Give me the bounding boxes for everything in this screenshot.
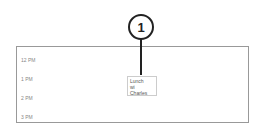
- callout-number: 1: [137, 20, 144, 35]
- time-label-3pm: 3 PM: [21, 114, 33, 120]
- callout-marker: 1: [128, 14, 154, 40]
- time-label-2pm: 2 PM: [21, 95, 33, 101]
- time-label-12pm: 12 PM: [21, 57, 35, 63]
- calendar-event[interactable]: Lunch wi Charles: [127, 76, 157, 96]
- callout-leader-line: [140, 38, 142, 75]
- time-label-1pm: 1 PM: [21, 76, 33, 82]
- event-attendee: Charles: [130, 90, 154, 96]
- calendar-day-view: 12 PM 1 PM 2 PM 3 PM Lunch wi Charles: [16, 46, 249, 123]
